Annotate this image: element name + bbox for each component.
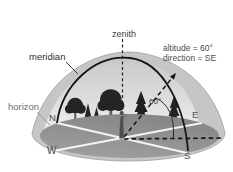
- altitude-annotation: altitude = 60°: [163, 43, 216, 53]
- sky-dome-diagram: zenith meridian horizon altitude = 60° d…: [0, 0, 233, 172]
- altitude-direction-annotation: altitude = 60° direction = SE: [163, 43, 216, 63]
- diagram-canvas: [0, 0, 233, 172]
- horizon-label: horizon: [8, 102, 39, 112]
- compass-east-label: E: [192, 110, 198, 120]
- angle-value-label: 60°: [149, 97, 161, 107]
- compass-south-label: S: [184, 151, 190, 161]
- zenith-label: zenith: [112, 29, 136, 39]
- compass-west-label: W: [47, 146, 56, 156]
- direction-annotation: direction = SE: [163, 53, 216, 63]
- compass-north-label: N: [49, 113, 56, 123]
- meridian-label: meridian: [29, 52, 65, 62]
